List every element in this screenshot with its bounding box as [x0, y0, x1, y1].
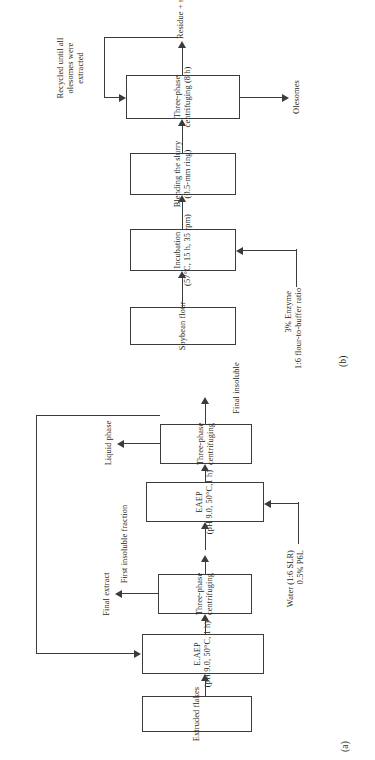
connector-eaep1-to-centrifuging1 — [205, 621, 206, 634]
connector-recycle-down — [104, 97, 119, 98]
node-incubation: Incubation (57°C, 15 h, 35 rpm) — [130, 229, 236, 271]
panel-b: (b) Soybean flour Incubation (57°C, 15 h… — [0, 0, 375, 375]
connector-to-eaep2 — [205, 529, 206, 550]
label-recycle-line1: Recycled until all — [56, 13, 66, 123]
node-centrifuging-2-line1: Three-phase — [196, 423, 206, 465]
connector-centrifuging1-out — [205, 562, 206, 574]
arrowhead-first-insoluble — [201, 555, 209, 562]
arrowhead-olesomes — [282, 94, 289, 102]
connector-incubation-to-blending — [182, 202, 183, 229]
node-centrifuging-1-line2: centrifuging — [205, 573, 215, 615]
node-eaep-2-line1: EAEP — [195, 491, 205, 512]
label-water: Water (1:6 SLR) 0.5% P6L — [286, 550, 306, 630]
arrowhead-centrifuging1-in — [201, 614, 209, 621]
node-blending: Blending the slurry (0.5-mm ring) — [130, 153, 236, 195]
arrowhead-eaep1-in — [201, 674, 209, 681]
connector-centrifuging-to-residue — [182, 48, 183, 75]
label-enzyme: 3% Enzyme 1:6 flour-to-buffer ratio — [284, 291, 304, 369]
connector-flour-to-incubation — [182, 278, 183, 307]
label-first-insoluble-fraction: First insoluble fraction — [120, 504, 130, 584]
node-three-phase-centrifuging: Three-phase centrifuging (8 h) — [126, 75, 240, 119]
arrowhead-incubation-in — [178, 271, 186, 278]
panel-b-tag: (b) — [338, 355, 348, 367]
node-eaep-1-line1: E.AEP — [193, 642, 203, 666]
node-eaep-2: EAEP (pH 9.0, 50°C,1 h) — [146, 482, 264, 522]
connector-olesomes — [240, 97, 282, 98]
label-recycle-line3: extracted — [76, 13, 86, 123]
connector-centrifuging2-to-final — [205, 404, 206, 424]
panel-a-rotation-wrapper: (a) Extruded flakes E.AEP (pH 9.0, 50°C,… — [0, 380, 375, 760]
node-centrifuging-2: Three-phase centrifuging — [160, 424, 252, 464]
arrowhead-centrifuging2-in — [201, 464, 209, 471]
label-water-line1: Water (1:6 SLR) — [286, 550, 296, 630]
node-soybean-flour: Soybean flour — [130, 307, 236, 345]
connector-water-horizontal — [298, 502, 299, 544]
node-centrifuging-line1: Three-phase — [173, 76, 183, 118]
connector-recycle-a-right — [36, 415, 160, 416]
label-enzyme-line2: 1:6 flour-to-buffer ratio — [294, 291, 304, 369]
node-centrifuging-2-line2: centrifuging — [206, 423, 216, 465]
label-olesomes: Olesomes — [292, 69, 302, 125]
panel-a: (a) Extruded flakes E.AEP (pH 9.0, 50°C,… — [0, 380, 375, 760]
arrowhead-recycle-a-in — [134, 650, 141, 658]
node-blending-line2: (0.5-mm ring) — [183, 150, 193, 199]
arrowhead-eaep2-in — [201, 522, 209, 529]
arrowhead-liquid-phase — [117, 440, 124, 448]
label-recycle: Recycled until all olesomes were extract… — [56, 13, 86, 123]
node-incubation-line1: Incubation — [173, 232, 183, 269]
node-extruded-flakes-line1: Extruded flakes — [192, 687, 202, 741]
connector-blending-to-centrifuging — [182, 126, 183, 153]
arrowhead-enzyme-in — [236, 247, 243, 255]
label-final-insoluble: Final insoluble — [232, 348, 242, 428]
panel-b-rotation-wrapper: (b) Soybean flour Incubation (57°C, 15 h… — [0, 0, 375, 375]
connector-recycle-horizontal — [104, 37, 105, 98]
connector-recycle-a-left — [36, 653, 134, 654]
connector-water-vertical — [271, 503, 299, 504]
label-final-extract: Final extract — [102, 556, 112, 632]
arrowhead-recycle-in — [119, 94, 126, 102]
connector-eaep2-to-centrifuging2 — [205, 471, 206, 482]
label-enzyme-line1: 3% Enzyme — [284, 291, 294, 369]
label-liquid-phase: Liquid phase — [104, 406, 114, 480]
connector-enzyme-vertical — [243, 250, 297, 251]
connector-flakes-to-eaep1 — [205, 681, 206, 696]
arrowhead-residue — [178, 41, 186, 48]
connector-liquid-phase — [124, 443, 160, 444]
arrowhead-centrifuging-in — [178, 119, 186, 126]
label-water-line2: 0.5% P6L — [296, 550, 306, 630]
node-centrifuging-1: Three-phase centrifuging — [158, 574, 252, 614]
connector-enzyme-horizontal — [296, 249, 297, 287]
arrowhead-final-extract — [115, 590, 122, 598]
connector-final-extract — [122, 593, 158, 594]
label-recycle-line2: olesomes were — [66, 13, 76, 123]
arrowhead-water-in — [264, 500, 271, 508]
arrowhead-final-insoluble — [201, 397, 209, 404]
connector-recycle-a-top — [36, 415, 37, 654]
node-centrifuging-1-line1: Three-phase — [195, 573, 205, 615]
label-residue-supernatant: Residue + supernatant — [176, 0, 186, 39]
connector-recycle-right-vertical — [104, 37, 178, 38]
node-extruded-flakes: Extruded flakes — [142, 696, 252, 732]
arrowhead-blending-in — [178, 195, 186, 202]
panel-a-tag: (a) — [340, 741, 350, 752]
node-soybean-flour-line1: Soybean flour — [178, 302, 188, 351]
node-eaep-1: E.AEP (pH 9.0, 50°C, 1 h) — [142, 634, 264, 674]
